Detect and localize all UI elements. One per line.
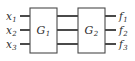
output-label-f2: f2 (118, 24, 128, 38)
input-label-x2: x2 (6, 24, 17, 38)
diagram-canvas: x1 x2 x3 G1 G2 f1 f2 f3 (0, 0, 135, 61)
block-diagram: x1 x2 x3 G1 G2 f1 f2 f3 (0, 0, 135, 61)
output-label-f3: f3 (118, 38, 128, 52)
input-label-x1: x1 (6, 10, 17, 24)
output-label-f1: f1 (118, 10, 128, 24)
input-label-x3: x3 (6, 38, 17, 52)
